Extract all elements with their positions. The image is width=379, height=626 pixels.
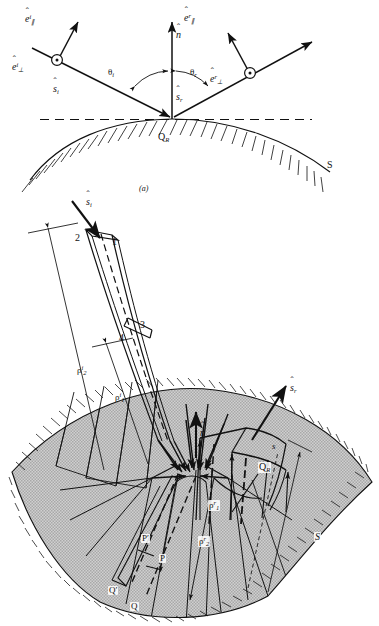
surface-patch-b xyxy=(12,389,372,618)
e-perp-reflected-dot-a xyxy=(249,72,252,75)
panel-b-group xyxy=(9,201,372,624)
panel-a-group xyxy=(22,22,330,192)
s-incident-vector-b xyxy=(72,201,100,238)
e-parallel-incident-vector-a xyxy=(58,22,78,60)
reflected-ray-a xyxy=(174,42,312,117)
figure-root: ˆei∥ ˆei⊥ ˆsi ˆn ˆer∥ ˆer⊥ ˆsr θi θr QR … xyxy=(0,0,379,626)
figure-canvas xyxy=(0,0,379,626)
theta-r-arc-a xyxy=(176,71,208,86)
e-parallel-reflected-vector-a xyxy=(228,33,249,72)
e-perp-incident-dot-a xyxy=(56,59,59,62)
surface-hatching-a xyxy=(22,120,323,192)
theta-i-arc-a xyxy=(135,71,168,86)
